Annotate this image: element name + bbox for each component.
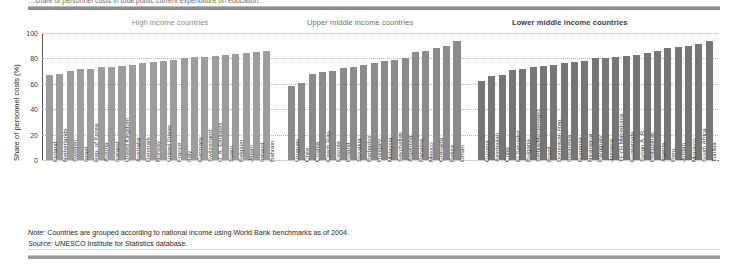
x-axis-label: Guatemala xyxy=(629,132,635,162)
note-label: Note: xyxy=(28,228,45,237)
x-axis-label: Italy xyxy=(186,151,192,162)
x-axis-label: Peru xyxy=(670,149,676,162)
x-axis-label: Israel xyxy=(83,147,89,162)
y-tick-label-0: 0 xyxy=(34,157,38,164)
x-axis-label: Sweden xyxy=(72,140,78,162)
x-axis-label: Brazil xyxy=(546,147,552,162)
x-axis-label: Hungary xyxy=(376,139,382,162)
source-line: Source: UNESCO Institute for Statistics … xyxy=(28,239,187,248)
x-axis-label: Bulgaria xyxy=(525,139,531,162)
x-axis-label: Belgium xyxy=(238,140,244,162)
x-axis-label: Indonesia xyxy=(566,135,572,162)
x-axis-label: Japan xyxy=(248,145,254,162)
x-axis-label: Nicaragua xyxy=(587,134,593,162)
x-axis-label: Mexico xyxy=(428,142,434,162)
x-axis-label: Australia xyxy=(135,138,141,162)
x-axis-label: U. A. Emirates xyxy=(217,122,223,162)
x-axis-label: Syrian A. R. xyxy=(639,129,645,162)
x-axis-label: Serbia/Montenegro xyxy=(535,109,541,162)
group-header-lower-middle-income: Lower middle income countries xyxy=(512,18,627,27)
x-axis-label: Tunisia xyxy=(711,142,717,162)
x-axis-label: Grenada xyxy=(438,138,444,162)
x-axis-label: South Africa xyxy=(701,129,707,162)
x-axis-label: Estonia xyxy=(335,141,341,162)
x-axis-label: Ireland xyxy=(259,143,265,162)
x-axis-label: Chile xyxy=(304,148,310,162)
x-axis-label: Azerbaijan xyxy=(494,133,500,162)
x-axis-label: Philippines xyxy=(649,132,655,162)
x-axis-label: Bahrain xyxy=(269,141,275,162)
x-axis-label: Jordan xyxy=(680,143,686,162)
x-axis-label: Austria xyxy=(103,143,109,162)
x-axis-label: Guyana xyxy=(484,140,490,162)
x-axis-label: Algeria xyxy=(660,143,666,162)
group-header-upper-middle-income: Upper middle income countries xyxy=(307,18,413,27)
chart-page: …share of personnel costs in total publi… xyxy=(0,0,730,266)
y-tick-label-80: 80 xyxy=(30,55,38,62)
x-axis-label: United Kingdom xyxy=(124,118,130,162)
top-rule xyxy=(28,6,720,10)
x-axis-label: Panama xyxy=(418,139,424,162)
x-axis-labels: FinlandNetherlandsSwedenIsraelRep. of Ko… xyxy=(42,162,718,222)
x-axis-label: TFYR Macedonia xyxy=(618,114,624,162)
source-label: Source: xyxy=(28,239,53,248)
note-text: Countries are grouped according to natio… xyxy=(45,228,349,237)
x-axis-label: Paraguay xyxy=(597,136,603,163)
bottom-rule xyxy=(28,255,720,259)
x-axis-label: Malaysia xyxy=(387,138,393,162)
cutoff-title-text: …share of personnel costs in total publi… xyxy=(28,0,718,5)
x-axis-label: Czech Rep. xyxy=(325,130,331,162)
x-axis-label: Iceland xyxy=(114,142,120,162)
x-axis-label: Croatia xyxy=(314,142,320,162)
y-axis-label: Share of personnel costs (%) xyxy=(12,33,24,161)
note-line: Note: Countries are grouped according to… xyxy=(28,228,349,237)
x-axis-label: Norway xyxy=(155,141,161,162)
y-tick-label-20: 20 xyxy=(30,131,38,138)
x-axis-label: Uruguay xyxy=(294,139,300,162)
x-axis-label: Switzerland xyxy=(207,130,213,162)
y-tick-label-40: 40 xyxy=(30,106,38,113)
x-axis-label: Belize xyxy=(449,145,455,162)
x-axis-label: Morocco xyxy=(691,138,697,162)
x-axis-label: Cuba xyxy=(504,147,510,162)
x-axis-label: Finland xyxy=(52,142,58,162)
cutoff-title: …share of personnel costs in total publi… xyxy=(28,0,718,5)
x-axis-label: United States xyxy=(166,125,172,162)
x-axis-label: El Salvador xyxy=(515,130,521,162)
x-axis-label: Argentina xyxy=(407,136,413,163)
x-axis-label: Slovakia xyxy=(356,139,362,162)
x-axis-label: Dominican Rep. xyxy=(556,118,562,162)
x-axis-label: Barbados xyxy=(366,136,372,163)
x-axis-label: Spain xyxy=(228,146,234,162)
x-axis-label: France xyxy=(176,143,182,162)
group-header-high-income: High income countries xyxy=(132,18,208,27)
x-axis-label: Oman xyxy=(459,145,465,162)
x-axis-label: Romania xyxy=(577,137,583,162)
x-axis-label: Jamaica xyxy=(608,139,614,162)
bottom-hairline xyxy=(28,249,720,250)
x-axis-label: Denmark xyxy=(145,137,151,162)
y-tick-label-60: 60 xyxy=(30,80,38,87)
x-axis-label: Netherlands xyxy=(62,129,68,162)
y-axis-label-text: Share of personnel costs (%) xyxy=(12,64,21,161)
x-axis-label: Seychelles xyxy=(397,132,403,162)
x-axis-label: Germany xyxy=(197,137,203,162)
bar xyxy=(453,41,460,160)
source-text: UNESCO Institute for Statistics database… xyxy=(53,239,188,248)
x-axis-label: Rep. of Korea xyxy=(93,124,99,162)
x-axis-label: Poland xyxy=(345,143,351,162)
y-tick-label-100: 100 xyxy=(26,30,38,37)
